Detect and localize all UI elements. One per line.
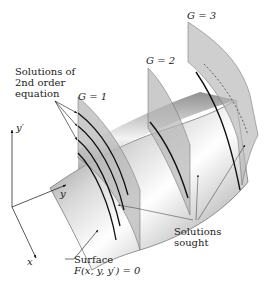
label-line: F(x, y, y′) = 0 (74, 265, 140, 276)
label-line: Solutions (174, 226, 221, 237)
label-line: 2nd order (15, 77, 75, 88)
label-solutions-2nd-order: Solutions of 2nd order equation (15, 66, 75, 99)
label-axis-y: y (60, 188, 66, 199)
label-line: sought (174, 237, 221, 248)
label-line: Surface (74, 254, 140, 265)
label-axis-x: x (27, 256, 33, 267)
axis-x (12, 207, 36, 258)
label-line: equation (15, 88, 75, 99)
label-solutions-sought: Solutions sought (174, 226, 221, 248)
label-surface: Surface F(x, y, y′) = 0 (74, 254, 140, 276)
label-g1: G = 1 (78, 91, 107, 102)
label-axis-yprime: y′ (16, 122, 24, 133)
label-g3: G = 3 (187, 10, 216, 21)
arrow-2nd-order-2 (55, 101, 77, 126)
label-g2: G = 2 (146, 55, 175, 66)
label-line: Solutions of (15, 66, 75, 77)
surface-diagram (0, 0, 268, 283)
